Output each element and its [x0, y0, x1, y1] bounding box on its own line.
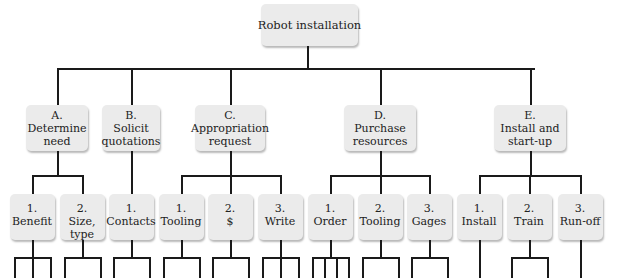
connector-line	[100, 257, 102, 278]
connector-line	[32, 240, 34, 258]
connector-line	[511, 257, 513, 278]
connector-line	[163, 257, 165, 278]
connector-line	[131, 151, 133, 195]
task-node-c: C.Appropriationrequest	[195, 105, 265, 151]
task-label-line1: Appropriation	[191, 122, 269, 135]
connector-line	[580, 240, 582, 278]
subtask-number: 2.	[77, 202, 88, 215]
connector-line	[298, 257, 300, 278]
connector-line	[530, 151, 532, 176]
connector-line	[32, 257, 34, 278]
connector-line	[511, 257, 549, 259]
subtask-node: 3.Run-off	[558, 194, 603, 240]
subtask-number: 2.	[225, 202, 236, 215]
connector-line	[312, 257, 314, 278]
connector-line	[50, 257, 52, 278]
connector-line	[362, 257, 400, 259]
connector-line	[181, 240, 183, 258]
subtask-label-line1: Install	[461, 215, 496, 228]
task-letter: C.	[224, 109, 236, 122]
subtask-node: 1.Benefit	[10, 194, 55, 240]
connector-line	[580, 175, 582, 195]
task-label-line1: Purchase	[354, 122, 406, 135]
subtask-number: 2.	[375, 202, 386, 215]
connector-line	[131, 240, 133, 258]
subtask-node: 1.Tooling	[159, 194, 204, 240]
subtask-number: 1.	[27, 202, 38, 215]
connector-line	[57, 151, 59, 176]
connector-line	[307, 46, 309, 69]
task-node-d: D.Purchaseresources	[344, 105, 416, 151]
connector-line	[248, 257, 250, 278]
connector-line	[131, 68, 133, 106]
task-label-line2: start-up	[508, 135, 552, 148]
connector-line	[32, 175, 84, 177]
connector-line	[330, 240, 332, 258]
subtask-label-line1: Tooling	[360, 215, 401, 228]
connector-line	[82, 240, 84, 258]
connector-line	[529, 240, 531, 258]
subtask-label-line1: Size,	[69, 215, 96, 228]
task-node-e: E.Install andstart-up	[494, 105, 566, 151]
task-label-line2: quotations	[101, 135, 160, 148]
connector-line	[411, 257, 413, 278]
connector-line	[199, 257, 201, 278]
task-label-line1: Solicit	[113, 122, 148, 135]
connector-line	[113, 257, 115, 278]
connector-line	[324, 257, 326, 278]
subtask-node: 2.Tooling	[358, 194, 403, 240]
subtask-label-line1: Contacts	[106, 215, 155, 228]
connector-line	[181, 175, 183, 195]
connector-line	[212, 257, 250, 259]
connector-line	[280, 175, 282, 195]
connector-line	[411, 257, 449, 259]
connector-line	[262, 257, 264, 278]
connector-line	[348, 257, 350, 278]
subtask-node: 2.Size,type	[60, 194, 105, 240]
connector-line	[330, 175, 332, 195]
connector-line	[230, 240, 232, 258]
subtask-number: 1.	[325, 202, 336, 215]
connector-line	[64, 257, 66, 278]
subtask-label-line1: $	[227, 215, 234, 228]
connector-line	[280, 257, 282, 278]
connector-line	[32, 175, 34, 195]
subtask-node: 2.$	[208, 194, 253, 240]
subtask-node: 2.Train	[507, 194, 552, 240]
subtask-label-line1: Tooling	[161, 215, 202, 228]
connector-line	[149, 257, 151, 278]
connector-line	[336, 257, 338, 278]
subtask-label-line1: Run-off	[560, 215, 601, 228]
connector-line	[212, 257, 214, 278]
connector-line	[429, 175, 431, 195]
task-label-line2: request	[209, 135, 251, 148]
connector-line	[230, 175, 232, 195]
task-label-line1: Install and	[500, 122, 559, 135]
connector-line	[280, 240, 282, 258]
work-breakdown-diagram: Robot installation A.Determineneed1.Bene…	[0, 0, 621, 278]
connector-line	[380, 68, 382, 106]
task-label-line2: need	[43, 135, 70, 148]
subtask-label-line1: Order	[313, 215, 346, 228]
subtask-number: 3.	[275, 202, 286, 215]
connector-line	[82, 175, 84, 195]
connector-line	[362, 257, 364, 278]
subtask-node: 1.Install	[457, 194, 502, 240]
connector-line	[529, 175, 531, 195]
subtask-node: 1.Order	[308, 194, 353, 240]
subtask-node: 3.Write	[258, 194, 303, 240]
connector-line	[530, 68, 532, 106]
task-node-a: A.Determineneed	[26, 105, 88, 151]
connector-line	[57, 68, 535, 70]
subtask-number: 3.	[424, 202, 435, 215]
connector-line	[380, 175, 382, 195]
task-letter: D.	[374, 109, 386, 122]
connector-line	[57, 68, 59, 106]
task-label-line2: resources	[353, 135, 408, 148]
connector-line	[113, 257, 151, 259]
subtask-label-line1: Train	[514, 215, 544, 228]
subtask-node: 1.Contacts	[109, 194, 154, 240]
connector-line	[398, 257, 400, 278]
task-letter: A.	[51, 109, 62, 122]
task-node-b: B.Solicitquotations	[102, 105, 160, 151]
